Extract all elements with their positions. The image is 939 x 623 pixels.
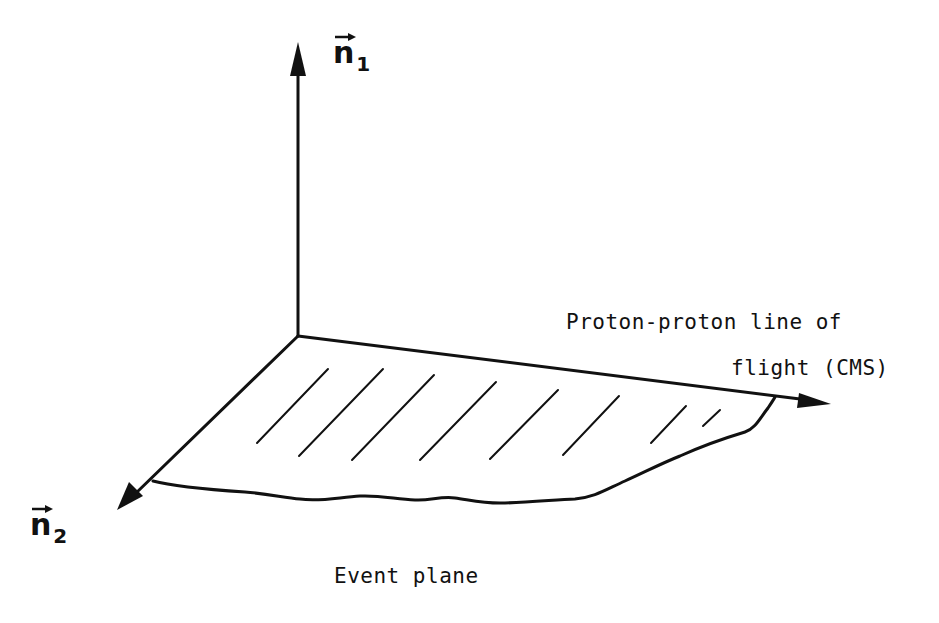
n2-label: n2 [30, 510, 67, 546]
event-plane-label: Event plane [334, 566, 479, 587]
n1-label: n1 [333, 38, 370, 74]
vector-arrow-icon [31, 504, 53, 514]
plane-hatching [257, 369, 720, 460]
n2-axis [117, 336, 298, 510]
beam-label-line2: flight (CMS) [731, 358, 889, 379]
beam-arrowhead-icon [797, 393, 831, 408]
n1-subscript: 1 [356, 52, 370, 76]
beam-label-line1: Proton-proton line of [566, 312, 842, 333]
n2-arrowhead-icon [117, 482, 143, 510]
event-plane-boundary [153, 397, 775, 503]
vector-arrow-icon [334, 32, 356, 42]
n1-axis [290, 42, 306, 336]
n2-subscript: 2 [53, 524, 67, 548]
n1-arrowhead-icon [290, 42, 306, 76]
